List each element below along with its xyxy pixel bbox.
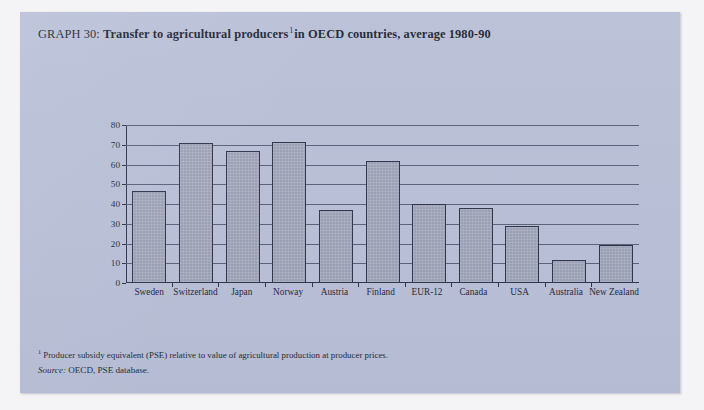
bar-cell [219, 125, 266, 283]
y-tick-label: 10 [111, 258, 120, 268]
figure-title-main: Transfer to agricultural producers [103, 27, 288, 41]
x-tick-label: Finland [358, 287, 404, 297]
figure-label: GRAPH 30: [38, 27, 100, 41]
x-tick-label: Switzerland [172, 287, 218, 297]
x-tick-label: EUR-12 [404, 287, 450, 297]
x-tick-label: Norway [265, 287, 311, 297]
bar-cell [406, 125, 453, 283]
x-tick-label: New Zealand [589, 287, 639, 297]
bar-cell [266, 125, 313, 283]
y-tick-label: 30 [111, 219, 120, 229]
x-tick-label: Japan [219, 287, 265, 297]
figure-title-tail: in OECD countries, average 1980-90 [294, 27, 490, 41]
bar-cell [592, 125, 639, 283]
x-tick-label: Sweden [126, 287, 172, 297]
x-tick-label: Canada [450, 287, 496, 297]
bar [412, 204, 446, 283]
x-axis-labels: SwedenSwitzerlandJapanNorwayAustriaFinla… [126, 287, 639, 297]
y-tick-mark [122, 283, 126, 284]
y-tick-label: 40 [111, 199, 120, 209]
y-tick-label: 80 [111, 120, 120, 130]
y-tick-label: 20 [111, 239, 120, 249]
bar-cell [359, 125, 406, 283]
figure-panel: GRAPH 30: Transfer to agricultural produ… [20, 12, 680, 393]
plot-area: 01020304050607080 [126, 125, 639, 283]
y-tick-label: 60 [111, 160, 120, 170]
bar-cell [452, 125, 499, 283]
bar [459, 208, 493, 283]
footnote: 1Producer subsidy equivalent (PSE) relat… [38, 348, 664, 360]
bar [319, 210, 353, 283]
bar-cell [126, 125, 173, 283]
figure-notes: 1Producer subsidy equivalent (PSE) relat… [38, 348, 664, 375]
bar-cell [499, 125, 546, 283]
bar-cell [173, 125, 220, 283]
source-label: Source: [38, 365, 66, 375]
y-tick-label: 70 [111, 140, 120, 150]
x-tick-label: USA [497, 287, 543, 297]
footnote-text: Producer subsidy equivalent (PSE) relati… [43, 350, 388, 360]
bar [505, 226, 539, 283]
bar [366, 161, 400, 283]
source-text: OECD, PSE database. [68, 365, 149, 375]
bar [599, 245, 633, 284]
bar-cell [313, 125, 360, 283]
bar-series [126, 125, 639, 283]
y-tick-label: 50 [111, 179, 120, 189]
screenshot-root: GRAPH 30: Transfer to agricultural produ… [0, 0, 704, 410]
bar-chart: 01020304050607080 SwedenSwitzerlandJapan… [80, 117, 660, 312]
bar [552, 260, 586, 283]
bar [132, 191, 166, 283]
figure-title: GRAPH 30: Transfer to agricultural produ… [38, 26, 666, 42]
source-line: Source: OECD, PSE database. [38, 365, 664, 375]
y-tick-label: 0 [115, 278, 120, 288]
bar-cell [546, 125, 593, 283]
bar [179, 143, 213, 283]
x-tick-label: Australia [543, 287, 589, 297]
bar [226, 151, 260, 283]
x-tick-label: Austria [311, 287, 357, 297]
bar [272, 142, 306, 283]
